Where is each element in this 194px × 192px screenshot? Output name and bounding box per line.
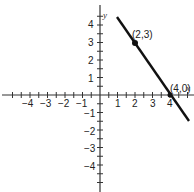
point-label: (2,3) <box>132 29 153 40</box>
x-tick-label: 4 <box>167 98 173 109</box>
y-tick-label: −3 <box>84 143 96 154</box>
y-tick-label: 2 <box>88 55 94 66</box>
y-tick-label: −4 <box>84 161 96 172</box>
x-tick-label: 1 <box>115 98 121 109</box>
x-tick-label: 3 <box>150 98 156 109</box>
x-tick-label: 2 <box>132 98 138 109</box>
y-tick-label: −1 <box>84 108 96 119</box>
point-2-3 <box>132 40 138 46</box>
x-tick-label: −3 <box>40 98 52 109</box>
y-tick-label: 3 <box>88 37 94 48</box>
coordinate-plane: x y −4 −3 −2 −1 1 2 3 4 4 3 2 1 −1 −2 −3… <box>0 0 194 192</box>
y-tick-label: −2 <box>84 126 96 137</box>
x-tick-label: −4 <box>22 98 34 109</box>
y-tick-label: 1 <box>88 73 94 84</box>
point-label: (4,0) <box>170 83 191 94</box>
x-tick-label: −2 <box>58 98 70 109</box>
y-tick-label: 4 <box>88 19 94 30</box>
y-axis-label: y <box>102 10 107 20</box>
